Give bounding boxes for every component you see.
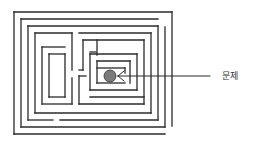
maze-diagram [0, 0, 254, 142]
maze-walls [14, 12, 172, 134]
goal-marker-icon [104, 70, 116, 82]
arrow-head-upper [118, 71, 124, 76]
problem-label: 문제 [222, 71, 238, 81]
arrow-head-lower [118, 76, 124, 81]
